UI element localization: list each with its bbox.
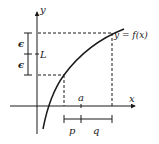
x-axis-label: x [129,93,135,104]
limit-label: L [39,49,47,60]
epsilon-top-label: ϵ [18,38,24,49]
point-a-label: a [78,92,84,103]
curve-label: y = f(x) [113,30,148,40]
pq-bracket [64,115,112,123]
interval-q-label: q [93,125,99,136]
y-axis-label: y [39,4,46,15]
epsilon-bracket [24,33,32,75]
interval-p-label: p [69,125,76,136]
epsilon-delta-diagram: y x y = f(x) L ϵ ϵ a p q [0,0,159,144]
epsilon-bottom-label: ϵ [18,59,24,70]
